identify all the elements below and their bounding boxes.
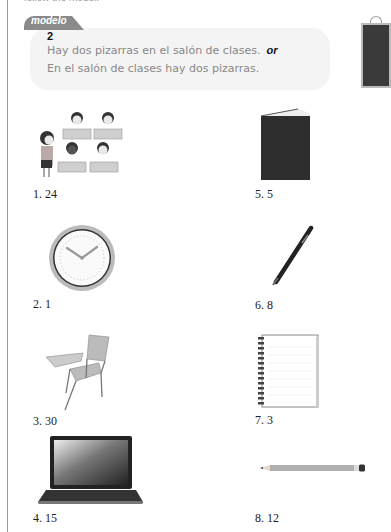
- clock-icon: [47, 223, 117, 293]
- pencil-icon: [258, 463, 368, 473]
- laptop-icon: [36, 434, 146, 506]
- classroom-icon: [30, 112, 130, 182]
- page-margin-rule: [7, 0, 8, 532]
- notebook-icon: [256, 333, 322, 409]
- model-sentence-1: Hay dos pizarras en el salón de clases.o…: [47, 44, 277, 57]
- book-icon: [258, 108, 318, 183]
- or-label: or: [266, 44, 277, 56]
- item-label-6: 6. 8: [255, 298, 273, 313]
- chalkboard-icon: [361, 23, 391, 88]
- model-sentence-2: En el salón de clases hay dos pizarras.: [47, 62, 259, 75]
- item-label-7: 7. 3: [255, 413, 273, 428]
- item-label-1: 1. 24: [33, 187, 57, 202]
- model-sentence-1-text: Hay dos pizarras en el salón de clases.: [47, 44, 260, 57]
- pen-icon: [268, 225, 318, 287]
- instruction-text: follow the model.: [24, 0, 99, 3]
- model-number: 2: [47, 30, 53, 42]
- item-label-4: 4. 15: [33, 511, 57, 526]
- model-example-box: [30, 28, 330, 90]
- item-label-3: 3. 30: [33, 414, 57, 429]
- item-label-5: 5. 5: [255, 187, 273, 202]
- model-tab-label: modelo: [31, 15, 67, 26]
- item-label-8: 8. 12: [255, 511, 279, 526]
- desk-chair-icon: [43, 333, 113, 413]
- item-label-2: 2. 1: [33, 297, 51, 312]
